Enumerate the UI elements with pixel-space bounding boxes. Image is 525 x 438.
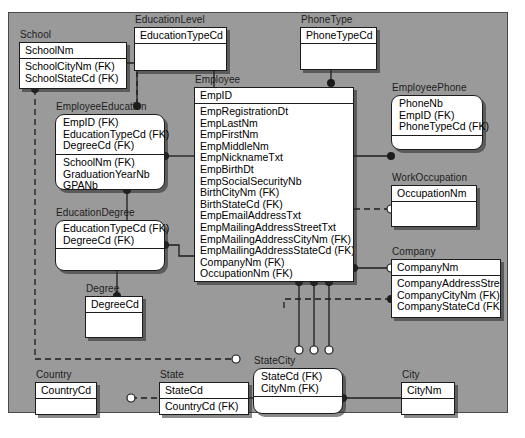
attr: StateCd (FK) [261,371,338,383]
entity-city-box[interactable]: CityNm [401,382,455,415]
entity-workoccupation-title: WorkOccupation [392,172,467,184]
entity-state[interactable]: State StateCd CountryCd (FK) [159,382,249,415]
entity-city-pk: CityNm [402,383,454,399]
attr: SchoolNm (FK) [63,157,160,169]
attr: EmpID [200,90,349,102]
entity-degree[interactable]: Degree DegreeCd [85,296,143,338]
entity-educationdegree-title: EducationDegree [56,207,135,219]
entity-state-box[interactable]: StateCd CountryCd (FK) [159,382,249,415]
entity-phonetype-box[interactable]: PhoneTypeCd [300,27,377,70]
entity-company-title: Company [392,246,436,258]
entity-company-pk: CompanyNm [392,260,500,276]
attr: OccupationNm (FK) [200,268,349,280]
attr: BirthCityNm (FK) [200,187,349,199]
entity-employeeeducation-box[interactable]: EmpID (FK) EducationTypeCd (FK) DegreeCd… [55,114,165,190]
entity-phonetype[interactable]: PhoneType PhoneTypeCd [300,27,377,70]
entity-school-attrs: SchoolCityNm (FK) SchoolStateCd (FK) [20,59,126,88]
entity-statecity-title: StateCity [254,355,295,367]
attr: EmpMailingAddressStateCd (FK) [200,245,349,257]
entity-country[interactable]: Country CountryCd [35,382,97,415]
entity-country-title: Country [36,369,72,381]
entity-degree-box[interactable]: DegreeCd [85,296,143,338]
entity-employeephone-title: EmployeePhone [392,82,467,94]
attr: GPANb [63,180,160,189]
entity-educationdegree-attrs [56,249,164,270]
entity-employeephone-attrs [392,136,482,149]
entity-state-pk: StateCd [160,383,248,399]
entity-educationlevel-title: EducationLevel [135,14,205,26]
entity-company-attrs: CompanyAddressStreetTxt CompanyCityNm (F… [392,276,500,317]
attr: SchoolNm [25,45,122,57]
entity-state-title: State [160,369,184,381]
attr: CountryCd (FK) [165,401,244,413]
attr: CompanyStateCd (FK) [397,301,496,313]
attr: CompanyAddressStreetTxt [397,278,496,290]
attr: SchoolStateCd (FK) [25,73,122,85]
attr: PhoneTypeCd (FK) [399,121,478,133]
entity-phonetype-title: PhoneType [301,14,353,26]
attr: EmpMailingAddressStreetTxt [200,222,349,234]
attr: DegreeCd (FK) [63,140,160,152]
attr: SchoolCityNm (FK) [25,61,122,73]
entity-school-pk: SchoolNm [20,43,126,59]
entity-city-attrs [402,399,454,414]
entity-degree-pk: DegreeCd [86,297,142,313]
entity-country-pk: CountryCd [36,383,96,399]
entity-statecity-box[interactable]: StateCd (FK) CityNm (FK) [253,368,343,414]
attr: PhoneNb [399,98,478,110]
entity-employeephone[interactable]: EmployeePhone PhoneNb EmpID (FK) PhoneTy… [391,95,483,150]
entity-workoccupation-pk: OccupationNm [392,186,476,202]
attr: EmpID (FK) [63,117,160,129]
entity-employee[interactable]: Employee EmpID EmpRegistrationDt EmpLast… [194,87,354,282]
entity-country-attrs [36,399,96,414]
attr: CityNm [407,385,450,397]
entity-degree-attrs [86,313,142,337]
line-company-statecity [284,299,391,308]
entity-employee-box[interactable]: EmpID EmpRegistrationDt EmpLastNm EmpFir… [194,87,354,282]
attr: CompanyNm [397,262,496,274]
attr: DegreeCd (FK) [63,235,160,247]
attr: StateCd [165,385,244,397]
entity-phonetype-attrs [301,44,376,69]
entity-workoccupation-attrs [392,202,476,226]
er-diagram-page: School SchoolNm SchoolCityNm (FK) School… [0,0,525,438]
attr: PhoneTypeCd [306,30,372,42]
entity-workoccupation[interactable]: WorkOccupation OccupationNm [391,185,477,227]
attr: EducationTypeCd [140,30,222,42]
entity-educationlevel-attrs [135,44,226,70]
entity-school-box[interactable]: SchoolNm SchoolCityNm (FK) SchoolStateCd… [19,42,127,89]
entity-educationlevel[interactable]: EducationLevel EducationTypeCd [134,27,227,71]
entity-company[interactable]: Company CompanyNm CompanyAddressStreetTx… [391,259,501,318]
entity-employeeeducation-title: EmployeeEducation [56,101,147,113]
entity-city[interactable]: City CityNm [401,382,455,415]
entity-workoccupation-box[interactable]: OccupationNm [391,185,477,227]
entity-employee-pk: EmpID [195,88,353,104]
entity-school[interactable]: School SchoolNm SchoolCityNm (FK) School… [19,42,127,89]
entity-statecity-pk: StateCd (FK) CityNm (FK) [254,369,342,397]
attr: EmpRegistrationDt [200,106,349,118]
attr: EducationTypeCd (FK) [63,223,160,235]
attr: EmpBirthDt [200,164,349,176]
entity-educationdegree-box[interactable]: EducationTypeCd (FK) DegreeCd (FK) [55,220,165,271]
entity-educationlevel-pk: EducationTypeCd [135,28,226,44]
entity-employee-title: Employee [195,74,240,86]
entity-company-box[interactable]: CompanyNm CompanyAddressStreetTxt Compan… [391,259,501,318]
entity-country-box[interactable]: CountryCd [35,382,97,415]
entity-statecity-attrs [254,397,342,413]
entity-school-title: School [20,29,51,41]
entity-statecity[interactable]: StateCity StateCd (FK) CityNm (FK) [253,368,343,414]
entity-employeephone-box[interactable]: PhoneNb EmpID (FK) PhoneTypeCd (FK) [391,95,483,150]
entity-employeephone-pk: PhoneNb EmpID (FK) PhoneTypeCd (FK) [392,96,482,136]
attr: DegreeCd [91,299,138,311]
entity-degree-title: Degree [86,283,119,295]
attr: CountryCd [41,385,92,397]
attr: CityNm (FK) [261,383,338,395]
entity-employeeeducation[interactable]: EmployeeEducation EmpID (FK) EducationTy… [55,114,165,190]
entity-employeeeducation-attrs: SchoolNm (FK) GraduationYearNb GPANb [56,155,164,189]
entity-state-attrs: CountryCd (FK) [160,399,248,414]
entity-educationlevel-box[interactable]: EducationTypeCd [134,27,227,71]
entity-phonetype-pk: PhoneTypeCd [301,28,376,44]
entity-educationdegree[interactable]: EducationDegree EducationTypeCd (FK) Deg… [55,220,165,271]
diagram-canvas[interactable]: School SchoolNm SchoolCityNm (FK) School… [8,12,508,413]
attr: OccupationNm [397,188,472,200]
